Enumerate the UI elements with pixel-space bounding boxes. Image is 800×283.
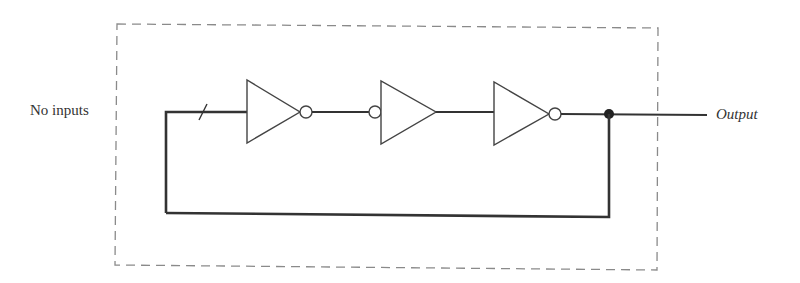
ring-oscillator-diagram: No inputs Output — [0, 0, 800, 283]
inversion-bubble-icon — [300, 106, 312, 118]
dashed-boundary-box — [115, 24, 658, 270]
no-inputs-label: No inputs — [30, 102, 89, 119]
inversion-bubble-icon — [549, 108, 561, 120]
inverter-3 — [494, 82, 561, 145]
output-label: Output — [716, 106, 758, 123]
inverter-2 — [369, 81, 436, 144]
output-wire — [561, 114, 707, 115]
input-wire — [166, 104, 247, 213]
inversion-bubble-icon — [369, 106, 381, 118]
inverter-1 — [247, 80, 312, 143]
circuit-drawing — [0, 0, 800, 283]
